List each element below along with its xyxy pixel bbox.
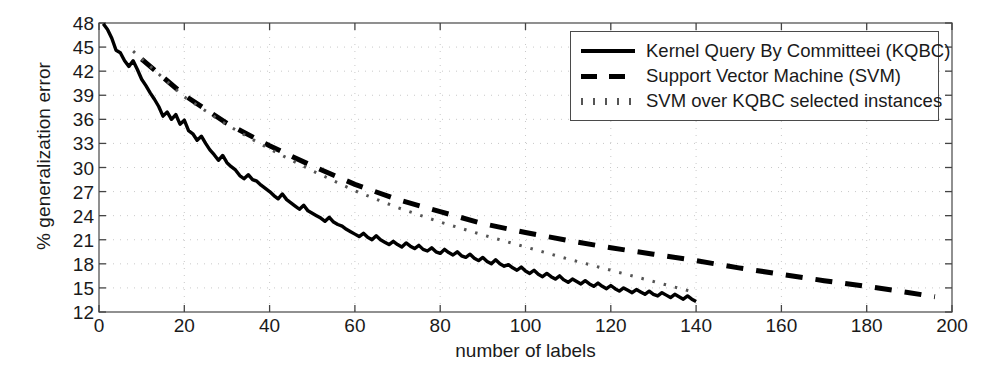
x-tick-180: 180 (851, 316, 883, 335)
legend-label-svm: Support Vector Machine (SVM) (646, 65, 901, 87)
generalization-error-chart: % generalization error 12151821242730333… (0, 0, 1007, 372)
legend-item-svm-over-kqbc: SVM over KQBC selected instances (579, 88, 930, 113)
x-axis-label: number of labels (99, 340, 952, 362)
x-tick-60: 60 (344, 316, 365, 335)
dashed-line-key (579, 69, 637, 83)
x-tick-40: 40 (259, 316, 280, 335)
dotted-line-key (579, 94, 637, 108)
x-tick-0: 0 (94, 316, 105, 335)
legend-label-svm-over-kqbc: SVM over KQBC selected instances (646, 90, 942, 112)
x-axis-tick-labels: 020406080100120140160180200 (0, 316, 1007, 342)
x-tick-140: 140 (680, 316, 712, 335)
x-tick-120: 120 (595, 316, 627, 335)
x-tick-80: 80 (430, 316, 451, 335)
x-tick-160: 160 (766, 316, 798, 335)
legend-item-kqbc: Kernel Query By Committeei (KQBC) (579, 38, 930, 63)
legend-label-kqbc: Kernel Query By Committeei (KQBC) (646, 40, 950, 62)
x-tick-200: 200 (936, 316, 968, 335)
x-tick-100: 100 (510, 316, 542, 335)
x-tick-20: 20 (174, 316, 195, 335)
legend-item-svm: Support Vector Machine (SVM) (579, 63, 930, 88)
solid-line-key (579, 44, 637, 58)
chart-legend: Kernel Query By Committeei (KQBC) Suppor… (570, 31, 939, 121)
